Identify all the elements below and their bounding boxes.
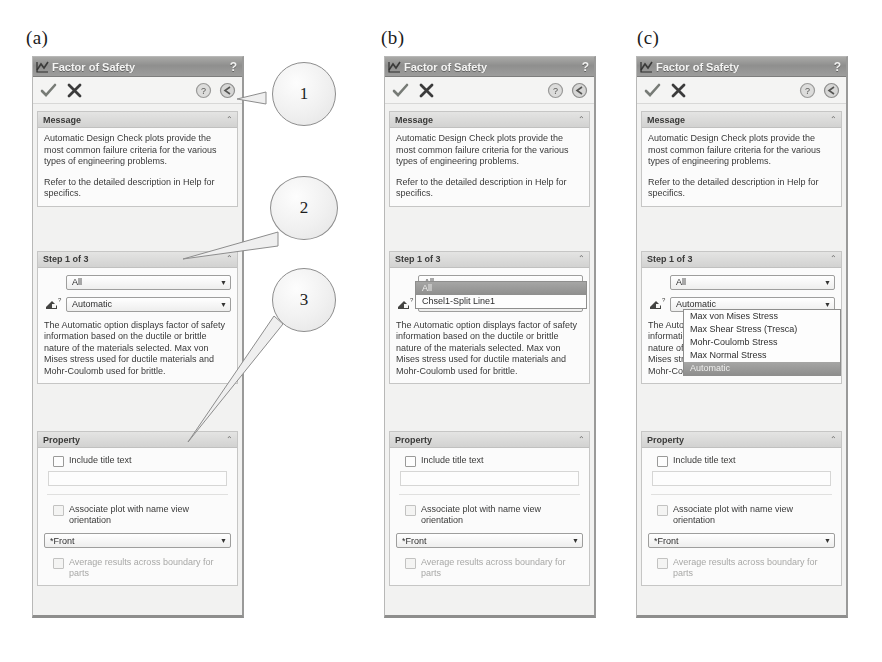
criterion-dropdown-option-2[interactable]: Mohr-Coulomb Stress — [684, 336, 840, 349]
green-check-icon[interactable] — [40, 82, 57, 99]
selection-combo[interactable]: All ▼ — [66, 275, 231, 290]
help-circle-icon[interactable]: ? — [195, 82, 212, 99]
svg-text:?: ? — [201, 86, 206, 96]
divider — [47, 494, 228, 495]
green-check-icon[interactable] — [392, 82, 409, 99]
include-title-text-checkbox[interactable] — [405, 456, 416, 467]
svg-text:?: ? — [662, 297, 666, 303]
message-header-label: Message — [395, 115, 578, 125]
include-title-text-row[interactable]: Include title text — [44, 455, 231, 467]
criterion-dropdown-option-1[interactable]: Max Shear Stress (Tresca) — [684, 323, 840, 336]
panel-toolbar: ? — [637, 77, 846, 104]
criterion-description: The Automatic option displays factor of … — [396, 320, 583, 378]
include-title-text-checkbox[interactable] — [53, 456, 64, 467]
chevron-up-icon[interactable]: ⌃ — [830, 436, 837, 444]
property-section-body: Include title text Associate plot with n… — [642, 448, 841, 585]
back-circle-icon[interactable] — [571, 82, 588, 99]
step-section: Step 1 of 3 ⌃ All ▼ ? — [389, 251, 590, 385]
view-orientation-combo[interactable]: *Front ▼ — [44, 533, 231, 548]
green-check-icon[interactable] — [644, 82, 661, 99]
associate-plot-row[interactable]: Associate plot with name view orientatio… — [396, 504, 583, 526]
associate-plot-row[interactable]: Associate plot with name view orientatio… — [44, 504, 231, 526]
chevron-up-icon[interactable]: ⌃ — [226, 116, 233, 124]
chevron-up-icon[interactable]: ⌃ — [830, 116, 837, 124]
fos-plot-icon — [640, 61, 653, 73]
include-title-text-checkbox[interactable] — [657, 456, 668, 467]
average-results-label: Average results across boundary for part… — [69, 557, 219, 579]
chevron-down-icon[interactable]: ▼ — [569, 534, 582, 547]
message-section: Message ⌃ Automatic Design Check plots p… — [389, 111, 590, 207]
view-orientation-value: *Front — [402, 536, 569, 546]
red-x-icon[interactable] — [670, 82, 687, 99]
criterion-combo-value: Automatic — [72, 299, 217, 309]
step-section-header[interactable]: Step 1 of 3 ⌃ — [642, 252, 841, 268]
include-title-text-row[interactable]: Include title text — [396, 455, 583, 467]
help-circle-icon[interactable]: ? — [547, 82, 564, 99]
divider — [651, 494, 832, 495]
selection-dropdown-list[interactable]: All Chsel1-Split Line1 — [415, 281, 587, 309]
title-text-input[interactable] — [652, 471, 831, 486]
callout-1: 1 — [272, 62, 336, 126]
message-header-label: Message — [43, 115, 226, 125]
chevron-up-icon[interactable]: ⌃ — [578, 436, 585, 444]
criterion-icon: ? — [396, 296, 415, 313]
selection-dropdown-option-1[interactable]: Chsel1-Split Line1 — [416, 295, 586, 308]
chevron-down-icon[interactable]: ▼ — [217, 298, 230, 311]
message-section-body: Automatic Design Check plots provide the… — [38, 128, 237, 206]
average-results-row: Average results across boundary for part… — [396, 557, 583, 579]
average-results-checkbox — [657, 558, 668, 569]
callout-2: 2 — [270, 176, 338, 240]
property-section-header[interactable]: Property ⌃ — [642, 432, 841, 448]
criterion-dropdown-option-3[interactable]: Max Normal Stress — [684, 349, 840, 362]
property-section-body: Include title text Associate plot with n… — [390, 448, 589, 585]
selection-dropdown-option-0[interactable]: All — [416, 282, 586, 295]
property-manager-panel-c: Factor of Safety ? ? Message ⌃ — [636, 56, 848, 618]
associate-plot-label: Associate plot with name view orientatio… — [673, 504, 821, 526]
svg-text:?: ? — [58, 297, 62, 303]
associate-plot-row[interactable]: Associate plot with name view orientatio… — [648, 504, 835, 526]
message-section-header[interactable]: Message ⌃ — [642, 112, 841, 128]
chevron-down-icon[interactable]: ▼ — [821, 276, 834, 289]
selection-combo[interactable]: All ▼ — [670, 275, 835, 290]
chevron-up-icon[interactable]: ⌃ — [578, 255, 585, 263]
help-glyph[interactable]: ? — [230, 60, 237, 74]
include-title-text-label: Include title text — [69, 455, 132, 466]
svg-text:?: ? — [805, 86, 810, 96]
associate-plot-checkbox[interactable] — [53, 505, 64, 516]
step-section-header[interactable]: Step 1 of 3 ⌃ — [390, 252, 589, 268]
help-circle-icon[interactable]: ? — [799, 82, 816, 99]
criterion-icon: ? — [648, 296, 667, 313]
criterion-dropdown-option-0[interactable]: Max von Mises Stress — [684, 310, 840, 323]
divider — [399, 494, 580, 495]
criterion-dropdown-option-4[interactable]: Automatic — [684, 362, 840, 375]
property-section-header[interactable]: Property ⌃ — [390, 432, 589, 448]
associate-plot-checkbox[interactable] — [405, 505, 416, 516]
help-glyph[interactable]: ? — [834, 60, 841, 74]
view-orientation-combo[interactable]: *Front ▼ — [396, 533, 583, 548]
chevron-up-icon[interactable]: ⌃ — [830, 255, 837, 263]
criterion-dropdown-list[interactable]: Max von Mises Stress Max Shear Stress (T… — [683, 309, 841, 376]
callout-1-number: 1 — [300, 84, 309, 104]
chevron-up-icon[interactable]: ⌃ — [578, 116, 585, 124]
title-text-input[interactable] — [400, 471, 579, 486]
figure-root: (a) Factor of Safety ? ? — [0, 0, 882, 662]
average-results-checkbox — [405, 558, 416, 569]
message-paragraph-1: Automatic Design Check plots provide the… — [44, 133, 231, 168]
chevron-down-icon[interactable]: ▼ — [217, 276, 230, 289]
back-circle-icon[interactable] — [219, 82, 236, 99]
red-x-icon[interactable] — [66, 82, 83, 99]
criterion-combo-value: Automatic — [676, 299, 821, 309]
panel-label-b: (b) — [381, 27, 404, 49]
chevron-down-icon[interactable]: ▼ — [821, 534, 834, 547]
red-x-icon[interactable] — [418, 82, 435, 99]
back-circle-icon[interactable] — [823, 82, 840, 99]
chevron-down-icon[interactable]: ▼ — [217, 534, 230, 547]
title-text-input[interactable] — [48, 471, 227, 486]
message-section-header[interactable]: Message ⌃ — [38, 112, 237, 128]
help-glyph[interactable]: ? — [582, 60, 589, 74]
include-title-text-row[interactable]: Include title text — [648, 455, 835, 467]
property-manager-panel-b: Factor of Safety ? ? Message ⌃ — [384, 56, 596, 618]
associate-plot-checkbox[interactable] — [657, 505, 668, 516]
view-orientation-combo[interactable]: *Front ▼ — [648, 533, 835, 548]
message-section-header[interactable]: Message ⌃ — [390, 112, 589, 128]
